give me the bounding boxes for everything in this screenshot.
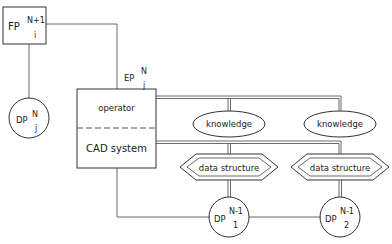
dp2-sup: N-1 bbox=[340, 207, 354, 216]
knowledge-1-label: knowledge bbox=[206, 119, 252, 129]
ep-sup: N bbox=[141, 67, 147, 76]
dp2-base: DP bbox=[325, 214, 337, 224]
ep-base: EP bbox=[124, 73, 135, 83]
knowledge-2-label: knowledge bbox=[317, 119, 363, 129]
ep-label: EP N j bbox=[124, 67, 147, 90]
fp-sup: N+1 bbox=[27, 16, 45, 25]
data-structure-2-label: data structure bbox=[310, 163, 370, 173]
dpj-base: DP bbox=[16, 115, 28, 125]
data-structure-1-label: data structure bbox=[199, 163, 259, 173]
dp1-base: DP bbox=[214, 214, 226, 224]
operator-label: operator bbox=[98, 103, 135, 113]
design-process-diagram: FP N+1 i DP N j EP N j operator CAD syst… bbox=[0, 0, 392, 244]
data-structure-node-1: data structure bbox=[180, 154, 278, 180]
data-structure-node-2: data structure bbox=[291, 154, 389, 180]
ep-box: operator CAD system bbox=[77, 89, 156, 168]
dpj-sup: N bbox=[32, 110, 38, 119]
dp1-sup: N-1 bbox=[229, 207, 243, 216]
knowledge-node-2: knowledge bbox=[304, 111, 376, 137]
edge-fp-ep bbox=[46, 24, 117, 89]
edge-ds-dp bbox=[228, 180, 342, 197]
dpj-sub: j bbox=[34, 124, 37, 133]
fp-sub: i bbox=[34, 31, 36, 40]
dp-j-node: DP N j bbox=[9, 98, 49, 138]
edge-ep-dp1 bbox=[117, 168, 210, 217]
edge-cad-datastructure bbox=[156, 141, 341, 154]
cad-system-label: CAD system bbox=[86, 143, 147, 154]
dp-1-node: DP N-1 1 bbox=[209, 197, 249, 237]
fp-node: FP N+1 i bbox=[3, 7, 46, 44]
edge-operator-knowledge bbox=[156, 96, 341, 111]
dp2-sub: 2 bbox=[344, 221, 349, 230]
dp-2-node: DP N-1 2 bbox=[320, 197, 360, 237]
dp1-sub: 1 bbox=[233, 221, 238, 230]
fp-base: FP bbox=[8, 21, 20, 32]
knowledge-node-1: knowledge bbox=[193, 111, 265, 137]
